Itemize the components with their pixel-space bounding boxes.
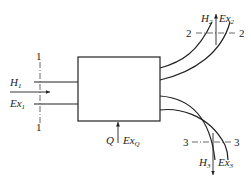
outlet-top-exergy-label: Ex2: [218, 12, 235, 26]
outlet-top-outer-curve: [160, 22, 230, 80]
outlet-bottom-enthalpy-label: H3: [198, 156, 211, 170]
outlet-bottom-exergy-label: Ex3: [217, 156, 234, 170]
section-2-label-right: 2: [239, 27, 245, 39]
heat-label: Q: [106, 134, 114, 146]
section-1-label-bottom: 1: [36, 121, 42, 133]
inlet-enthalpy-label: H1: [9, 76, 21, 90]
outlet-bottom-inner-curve: [160, 96, 215, 160]
control-volume-box: [78, 57, 160, 121]
heat-exergy-label: ExQ: [122, 134, 140, 148]
outlet-bottom-outer-curve: [160, 110, 228, 160]
section-1-label-top: 1: [36, 50, 42, 62]
flow-diagram: 1 1 2 2 3 3 H1 Ex1 H2 Ex2 H3 Ex3 Q ExQ: [0, 0, 251, 179]
inlet-exergy-label: Ex1: [9, 97, 25, 111]
section-3-label-left: 3: [183, 136, 189, 148]
outlet-top-enthalpy-label: H2: [200, 12, 213, 26]
section-3-label-right: 3: [234, 136, 240, 148]
section-2-label-left: 2: [186, 27, 192, 39]
